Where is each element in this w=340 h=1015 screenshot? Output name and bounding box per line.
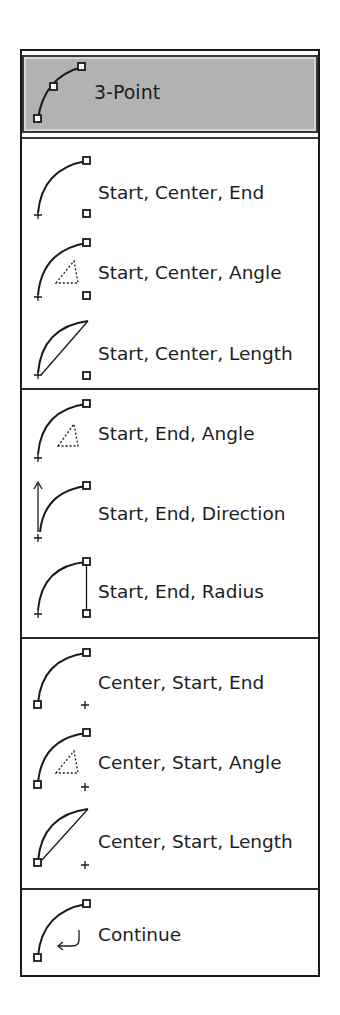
menu-item-label: Center, Start, End bbox=[98, 672, 264, 694]
arc-dropdown-menu: 3-Point Start, Center, End Start, Center… bbox=[20, 49, 320, 977]
menu-item-start-center-end[interactable]: Start, Center, End bbox=[22, 149, 318, 229]
arc-continue-icon bbox=[28, 898, 92, 968]
menu-item-label: Start, Center, End bbox=[98, 182, 264, 204]
menu-item-start-end-radius[interactable]: Start, End, Radius bbox=[22, 550, 318, 636]
arc-center-start-end-icon bbox=[28, 647, 92, 717]
menu-item-label: Start, End, Radius bbox=[98, 581, 264, 603]
menu-item-label: Start, Center, Length bbox=[98, 343, 293, 365]
arc-start-center-end-icon bbox=[28, 155, 92, 225]
arc-center-start-length-icon bbox=[28, 805, 92, 875]
menu-item-label: Continue bbox=[98, 924, 181, 946]
arc-start-end-radius-icon bbox=[28, 554, 92, 624]
menu-item-center-start-angle[interactable]: Center, Start, Angle bbox=[22, 719, 318, 799]
menu-item-label: 3-Point bbox=[94, 81, 160, 103]
menu-item-label: Start, End, Direction bbox=[98, 503, 285, 525]
arc-3point-icon bbox=[26, 57, 90, 127]
arc-center-start-angle-icon bbox=[28, 727, 92, 797]
menu-item-start-end-angle[interactable]: Start, End, Angle bbox=[22, 390, 318, 470]
menu-item-center-start-length[interactable]: Center, Start, Length bbox=[22, 799, 318, 887]
arc-start-end-angle-icon bbox=[28, 398, 92, 468]
arc-start-end-direction-icon bbox=[28, 476, 92, 546]
arc-start-center-length-icon bbox=[28, 317, 92, 387]
menu-item-label: Start, Center, Angle bbox=[98, 262, 282, 284]
menu-item-start-center-length[interactable]: Start, Center, Length bbox=[22, 311, 318, 391]
divider bbox=[22, 137, 318, 139]
menu-item-label: Start, End, Angle bbox=[98, 423, 255, 445]
arc-start-center-angle-icon bbox=[28, 237, 92, 307]
menu-item-label: Center, Start, Angle bbox=[98, 752, 282, 774]
menu-item-continue[interactable]: Continue bbox=[22, 890, 318, 975]
menu-item-label: Center, Start, Length bbox=[98, 831, 293, 853]
menu-item-3-point[interactable]: 3-Point bbox=[22, 55, 318, 133]
menu-item-center-start-end[interactable]: Center, Start, End bbox=[22, 639, 318, 719]
menu-item-start-center-angle[interactable]: Start, Center, Angle bbox=[22, 229, 318, 311]
menu-item-start-end-direction[interactable]: Start, End, Direction bbox=[22, 470, 318, 550]
